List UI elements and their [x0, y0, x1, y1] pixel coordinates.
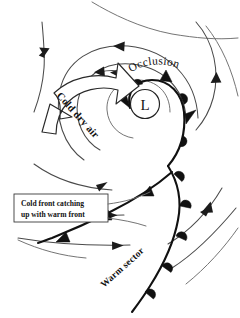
streamline-right-lower-3: [186, 228, 238, 284]
streamline-arrowhead-icon: [201, 202, 213, 213]
warm-sector-text: Warm sector: [99, 245, 147, 289]
streamline-arrowhead-icon: [112, 241, 124, 250]
callout-line-2: up with warm front: [21, 210, 85, 219]
streamline-arrowhead-icon: [113, 42, 125, 52]
warm-front-semicircle: [176, 232, 187, 241]
warm-sector-label: Warm sector: [99, 245, 147, 289]
warm-front-line: [132, 166, 180, 312]
callout-leader-line-2: [108, 218, 146, 226]
cyclone-diagram: L Occlusion Cold dry air Cold front catc…: [0, 0, 240, 318]
streamline-arrowhead-icon: [211, 72, 222, 83]
callout-cold-front-catching[interactable]: Cold front catching up with warm front: [14, 194, 108, 222]
occluded-front-triangle: [185, 110, 196, 124]
warm-front-semicircle: [180, 200, 191, 208]
streamline-top-outer: [92, 2, 238, 39]
streamline-left-inflow: [34, 22, 44, 112]
occluded-front-triangle: [160, 70, 172, 82]
low-pressure-label: L: [140, 97, 149, 113]
warm-front-semicircle: [162, 263, 173, 273]
warm-front-semicircle: [145, 289, 156, 299]
callout-line-1: Cold front catching: [21, 199, 84, 208]
streamline-right-far: [206, 26, 238, 96]
